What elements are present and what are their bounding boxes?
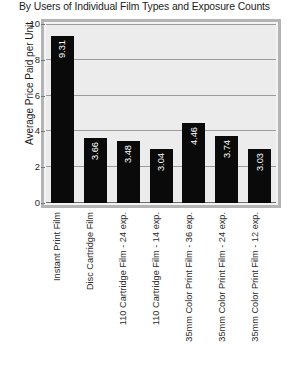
plot-area: 9.313.663.483.044.463.743.03 bbox=[46, 24, 276, 203]
y-axis-tick-labels: 0246810 bbox=[18, 0, 40, 365]
x-axis-category-labels: Instant Print FilmDisc Cartridge Film110… bbox=[41, 208, 281, 365]
y-axis-tick-label: 4 bbox=[18, 126, 40, 136]
bar[interactable]: 3.03 bbox=[248, 149, 271, 203]
x-axis-category-label: 110 Cartridge Film - 14 exp. bbox=[151, 212, 161, 325]
chart-title: By Users of Individual Film Types and Ex… bbox=[0, 1, 289, 12]
bar-value-label: 3.04 bbox=[156, 153, 166, 171]
y-axis-tick-mark bbox=[41, 203, 45, 204]
bars-layer: 9.313.663.483.044.463.743.03 bbox=[46, 24, 276, 203]
plot-frame: 9.313.663.483.044.463.743.03 bbox=[41, 19, 281, 208]
y-axis-tick-mark bbox=[41, 60, 45, 61]
bar[interactable]: 3.48 bbox=[117, 141, 140, 203]
bar[interactable]: 4.46 bbox=[182, 123, 205, 203]
bar[interactable]: 3.66 bbox=[84, 138, 107, 204]
x-axis-category-label: Instant Print Film bbox=[52, 212, 62, 281]
y-axis-tick-label: 10 bbox=[18, 19, 40, 29]
bar-chart: By Users of Individual Film Types and Ex… bbox=[0, 0, 289, 365]
bar-value-label: 3.74 bbox=[222, 140, 232, 158]
plot-inner-bevel: 9.313.663.483.044.463.743.03 bbox=[44, 22, 278, 205]
x-axis-label-slot: 35mm Color Print Film - 24 exp. bbox=[205, 208, 238, 365]
bar-value-label: 3.03 bbox=[255, 153, 265, 171]
y-axis-tick-mark bbox=[41, 167, 45, 168]
bar-value-label: 9.31 bbox=[57, 40, 67, 58]
y-axis-tick-mark bbox=[41, 131, 45, 132]
x-axis-category-label: 35mm Color Print Film - 36 exp. bbox=[184, 212, 194, 342]
x-axis-label-slot: 35mm Color Print Film - 36 exp. bbox=[172, 208, 205, 365]
x-axis-label-slot: 110 Cartridge Film - 24 exp. bbox=[107, 208, 140, 365]
x-axis-label-slot: Instant Print Film bbox=[41, 208, 74, 365]
x-axis-label-slot: Disc Cartridge Film bbox=[74, 208, 107, 365]
y-axis-tick-mark bbox=[41, 96, 45, 97]
y-axis-tick-mark bbox=[41, 24, 45, 25]
bar[interactable]: 3.04 bbox=[150, 149, 173, 203]
bar[interactable]: 3.74 bbox=[215, 136, 238, 203]
y-axis-tick-label: 0 bbox=[18, 198, 40, 208]
bar-value-label: 3.48 bbox=[123, 145, 133, 163]
x-axis-label-slot: 110 Cartridge Film - 14 exp. bbox=[140, 208, 173, 365]
x-axis-category-label: 110 Cartridge Film - 24 exp. bbox=[118, 212, 128, 325]
bar-value-label: 4.46 bbox=[189, 127, 199, 145]
x-axis-category-label: 35mm Color Print Film - 12 exp. bbox=[250, 212, 260, 342]
bar-value-label: 3.66 bbox=[90, 142, 100, 160]
y-axis-tick-label: 8 bbox=[18, 55, 40, 65]
x-axis-label-slot: 35mm Color Print Film - 12 exp. bbox=[238, 208, 271, 365]
bar[interactable]: 9.31 bbox=[51, 36, 74, 203]
y-axis-tick-label: 2 bbox=[18, 162, 40, 172]
x-axis-category-label: 35mm Color Print Film - 24 exp. bbox=[217, 212, 227, 342]
x-axis-category-label: Disc Cartridge Film bbox=[85, 212, 95, 290]
y-axis-tick-label: 6 bbox=[18, 91, 40, 101]
